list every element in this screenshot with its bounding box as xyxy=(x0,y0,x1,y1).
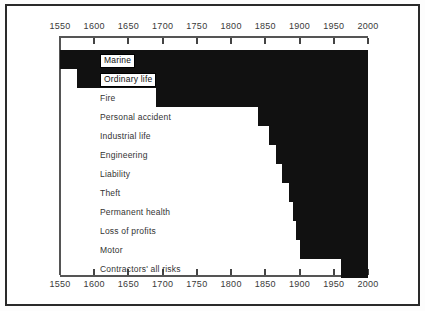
x-tick-label-top-1900: 1900 xyxy=(283,21,317,31)
bar-motor xyxy=(300,240,368,259)
bar-liability xyxy=(282,164,368,183)
x-tick-label-bottom-1600: 1600 xyxy=(77,279,111,289)
x-tick-label-top-1950: 1950 xyxy=(317,21,351,31)
x-tick-bottom-1900 xyxy=(299,269,301,275)
category-label-liability: Liability xyxy=(100,169,130,180)
bar-engineering xyxy=(276,145,368,164)
x-tick-label-top-1800: 1800 xyxy=(214,21,248,31)
category-label-contractors-all-risks: Contractors' all risks xyxy=(100,264,181,275)
category-label-motor: Motor xyxy=(100,245,123,256)
x-tick-top-1650 xyxy=(127,38,129,44)
category-label-personal-accident: Personal accident xyxy=(100,112,171,123)
category-label-loss-of-profits: Loss of profits xyxy=(100,226,156,237)
bar-personal-accident xyxy=(258,107,368,126)
x-axis-line-top xyxy=(60,36,368,38)
x-tick-label-bottom-1950: 1950 xyxy=(317,279,351,289)
bar-theft xyxy=(289,183,368,202)
bar-permanent-health xyxy=(293,202,368,221)
category-label-fire: Fire xyxy=(100,93,115,104)
x-tick-label-top-2000: 2000 xyxy=(351,21,385,31)
x-tick-top-1800 xyxy=(230,38,232,44)
category-label-marine: Marine xyxy=(100,54,135,68)
x-tick-label-top-1700: 1700 xyxy=(146,21,180,31)
category-label-engineering: Engineering xyxy=(100,150,148,161)
category-label-theft: Theft xyxy=(100,188,120,199)
x-tick-label-bottom-1650: 1650 xyxy=(111,279,145,289)
bar-fire xyxy=(156,88,368,107)
x-tick-label-bottom-2000: 2000 xyxy=(351,279,385,289)
x-tick-top-1850 xyxy=(264,38,266,44)
category-label-permanent-health: Permanent health xyxy=(100,207,170,218)
x-tick-bottom-1600 xyxy=(93,269,95,275)
x-tick-label-top-1750: 1750 xyxy=(180,21,214,31)
x-tick-label-bottom-1800: 1800 xyxy=(214,279,248,289)
x-tick-label-bottom-1550: 1550 xyxy=(43,279,77,289)
x-tick-top-1600 xyxy=(93,38,95,44)
x-tick-bottom-1850 xyxy=(264,269,266,275)
x-tick-label-bottom-1750: 1750 xyxy=(180,279,214,289)
x-tick-label-top-1550: 1550 xyxy=(43,21,77,31)
x-tick-top-2000 xyxy=(367,38,369,44)
category-label-ordinary-life: Ordinary life xyxy=(100,73,156,87)
x-tick-top-1750 xyxy=(196,38,198,44)
chart-figure: 1550155016001600165016501700170017501750… xyxy=(0,0,425,311)
x-tick-top-1700 xyxy=(162,38,164,44)
axis-left-spur xyxy=(59,36,61,275)
x-tick-bottom-1800 xyxy=(230,269,232,275)
category-label-industrial-life: Industrial life xyxy=(100,131,151,142)
x-tick-bottom-1750 xyxy=(196,269,198,275)
x-tick-top-1950 xyxy=(333,38,335,44)
plot-area: 1550155016001600165016501700170017501750… xyxy=(0,0,425,311)
x-tick-label-bottom-1700: 1700 xyxy=(146,279,180,289)
bar-loss-of-profits xyxy=(296,221,368,240)
x-tick-label-bottom-1850: 1850 xyxy=(248,279,282,289)
bar-industrial-life xyxy=(269,126,368,145)
x-tick-top-1900 xyxy=(299,38,301,44)
x-axis-line-bottom xyxy=(60,275,368,277)
x-tick-label-top-1650: 1650 xyxy=(111,21,145,31)
x-tick-label-bottom-1900: 1900 xyxy=(283,279,317,289)
x-tick-label-top-1600: 1600 xyxy=(77,21,111,31)
x-tick-bottom-1950 xyxy=(333,269,335,275)
bar-contractors-all-risks xyxy=(341,259,368,278)
x-tick-label-top-1850: 1850 xyxy=(248,21,282,31)
